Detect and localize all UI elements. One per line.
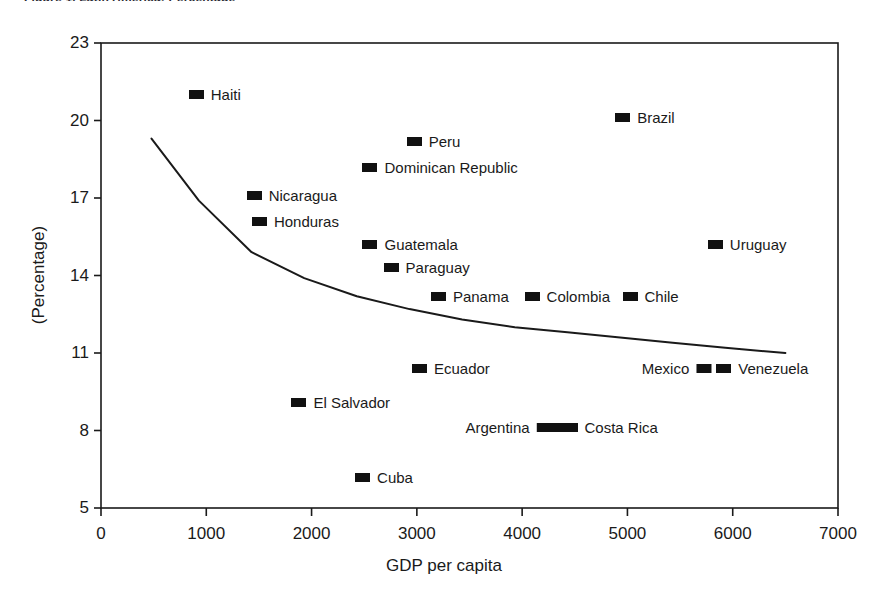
x-tick-label: 6000 [714, 524, 752, 544]
data-point-marker [407, 137, 422, 146]
data-point: Colombia [525, 289, 610, 303]
y-tick-label: 20 [70, 111, 89, 131]
x-tick-label: 2000 [293, 524, 331, 544]
x-tick-label: 5000 [609, 524, 647, 544]
y-tick-label: 14 [70, 266, 89, 286]
data-point: Nicaragua [247, 188, 337, 202]
data-point-marker [362, 163, 377, 172]
data-point-marker [563, 423, 578, 432]
data-point-marker [716, 364, 731, 373]
data-point: Paraguay [384, 261, 470, 275]
x-tick-label: 7000 [819, 524, 857, 544]
data-point-marker [431, 292, 446, 301]
data-point-label: Venezuela [738, 361, 808, 376]
y-tick-label: 11 [71, 343, 89, 363]
data-point-label: Guatemala [384, 237, 457, 252]
data-point-label: Uruguay [730, 237, 787, 252]
data-point: Venezuela [716, 362, 808, 376]
data-point-label: Peru [429, 134, 461, 149]
data-point-label: Haiti [211, 87, 241, 102]
data-point: El Salvador [291, 395, 390, 409]
data-point-marker [291, 398, 306, 407]
data-point-marker [384, 263, 399, 272]
data-point-label: Honduras [274, 214, 339, 229]
data-point: Ecuador [412, 362, 490, 376]
data-point-marker [189, 90, 204, 99]
y-tick-label: 23 [70, 33, 89, 53]
data-point: Uruguay [708, 238, 787, 252]
data-point: Brazil [615, 111, 675, 125]
x-tick-label: 0 [96, 524, 105, 544]
data-point: Panama [431, 289, 509, 303]
y-tick-label: 17 [70, 188, 89, 208]
data-point-marker [708, 240, 723, 249]
data-point: Haiti [189, 88, 241, 102]
data-point-label: Mexico [642, 361, 690, 376]
data-point-label: Paraguay [406, 260, 470, 275]
data-point-label: El Salvador [313, 395, 390, 410]
data-point-marker [525, 292, 540, 301]
data-point-label: Costa Rica [585, 420, 658, 435]
tick-marks [94, 43, 838, 516]
data-point-marker [247, 191, 262, 200]
data-point-label: Cuba [377, 470, 413, 485]
data-point: Honduras [252, 214, 339, 228]
data-point: Argentina [465, 421, 566, 435]
data-point-marker [623, 292, 638, 301]
x-tick-label: 3000 [398, 524, 436, 544]
scatter-chart: 232017141185 010002000300040005000600070… [0, 0, 888, 606]
data-point-marker [355, 473, 370, 482]
x-tick-label: 4000 [503, 524, 541, 544]
data-point-marker [252, 217, 267, 226]
data-point: Peru [407, 134, 461, 148]
data-point-label: Brazil [637, 110, 675, 125]
x-tick-label: 1000 [187, 524, 225, 544]
data-point-label: Chile [645, 289, 679, 304]
y-tick-label: 5 [80, 498, 89, 518]
data-point-label: Colombia [547, 289, 610, 304]
data-point: Mexico [642, 362, 712, 376]
x-axis-title: GDP per capita [0, 556, 888, 576]
data-point: Dominican Republic [362, 160, 517, 174]
data-point-label: Dominican Republic [384, 160, 517, 175]
data-point-marker [362, 240, 377, 249]
data-point-label: Ecuador [434, 361, 490, 376]
data-point-marker [615, 113, 630, 122]
data-point: Costa Rica [563, 421, 658, 435]
data-point: Guatemala [362, 238, 457, 252]
data-point-marker [412, 364, 427, 373]
data-point-label: Argentina [465, 420, 529, 435]
data-point-marker [696, 364, 711, 373]
data-point-label: Nicaragua [269, 188, 337, 203]
data-point: Chile [623, 289, 679, 303]
y-tick-label: 8 [80, 421, 89, 441]
data-point: Cuba [355, 470, 413, 484]
y-axis-title: (Percentage) [29, 195, 49, 355]
data-point-label: Panama [453, 289, 509, 304]
